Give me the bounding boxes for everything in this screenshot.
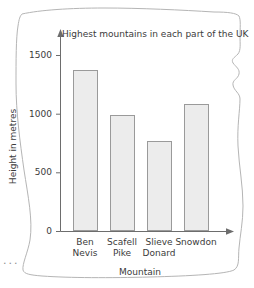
category-label-line2: Donard (135, 248, 183, 259)
category-label-line1: Snowdon (172, 237, 220, 248)
bar-ben-nevis[interactable] (73, 70, 98, 231)
bar-snowdon[interactable] (184, 104, 209, 232)
chart-title: Highest mountains in each part of the UK (62, 30, 252, 39)
bar-chart: Highest mountains in each part of the UK… (0, 0, 254, 288)
y-tick-label-1500: 1500 (18, 51, 52, 60)
y-axis-label: Height in metres (9, 102, 18, 192)
x-axis-label: Mountain (60, 268, 220, 277)
y-tick-label-500: 500 (18, 168, 52, 177)
bar-slieve-donard[interactable] (147, 141, 172, 232)
y-tick-label-1000: 1000 (18, 110, 52, 119)
screenshot-root: ... Highest mountains in each part of th… (0, 0, 254, 288)
category-label-snowdon: Snowdon (172, 237, 220, 248)
bar-scafell-pike[interactable] (110, 115, 135, 231)
y-tick-label-0: 0 (18, 227, 52, 236)
